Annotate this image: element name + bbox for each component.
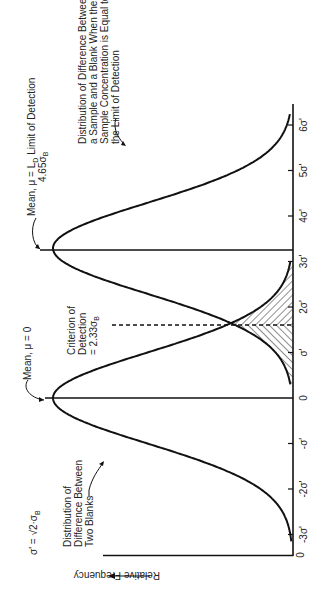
sigma-definition: σ' = √2·σB — [28, 510, 41, 555]
tick-label: -2σ' — [298, 480, 309, 497]
mean-ld-sublabel: 4.65σB — [37, 151, 49, 182]
detection-limit-chart: -3σ'-2σ'-σ'0σ'2σ'3σ'4σ'5σ'6σ' σ' = √2·σB… — [0, 0, 331, 605]
tick-label: 3σ' — [298, 255, 309, 269]
sample-distribution-label: Distribution of Difference Between a Sam… — [77, 0, 121, 144]
tick-label: 5σ' — [298, 164, 309, 178]
blanks-dist-arrowhead — [99, 461, 104, 466]
tick-label: -3σ' — [298, 526, 309, 543]
mean-ld-arrow — [33, 218, 40, 249]
tick-label: 2σ' — [298, 300, 309, 314]
mean-zero-label: Mean, μ = 0 — [22, 326, 33, 380]
tick-label: -σ' — [298, 438, 309, 450]
mean-ld-label: Mean, μ = LD Limit of Detection — [26, 78, 39, 216]
mean-zero-arrow — [26, 380, 44, 400]
origin-label: 0 — [295, 552, 306, 558]
blanks-dist-arrow — [89, 463, 103, 497]
criterion-label: Criterion of Detection = 2.33σB — [66, 303, 100, 355]
tick-label: 4σ' — [298, 209, 309, 223]
tick-label: 0 — [298, 395, 309, 401]
blanks-distribution-label: Distribution of Difference Between Two B… — [62, 457, 95, 547]
tick-label: σ' — [298, 348, 309, 356]
tick-label: 6σ' — [298, 118, 309, 132]
